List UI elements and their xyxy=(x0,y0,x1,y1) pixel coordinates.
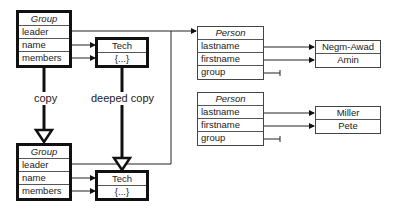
tech-object-bottom: Tech {...} xyxy=(95,170,149,201)
field-firstname: firstname xyxy=(198,119,263,132)
value-firstname: Pete xyxy=(316,120,380,133)
field-leader: leader xyxy=(19,26,69,39)
tech-object-top: Tech {...} xyxy=(95,37,149,68)
group-title: Group xyxy=(19,146,69,159)
value-lastname: Negm-Awad xyxy=(316,41,380,54)
field-firstname: firstname xyxy=(198,53,263,66)
field-lastname: lastname xyxy=(198,40,263,53)
deep-copy-label: deeped copy xyxy=(90,92,155,105)
tech-content: {...} xyxy=(98,53,146,66)
person-2-values: Miller Pete xyxy=(315,106,381,134)
person-1-values: Negm-Awad Amin xyxy=(315,40,381,68)
person-object-1: Person lastname firstname group xyxy=(197,26,264,80)
field-lastname: lastname xyxy=(198,106,263,119)
tech-title: Tech xyxy=(98,173,146,186)
value-firstname: Amin xyxy=(316,54,380,67)
field-name: name xyxy=(19,39,69,52)
group-object-bottom: Group leader name members xyxy=(16,143,72,201)
tech-title: Tech xyxy=(98,40,146,53)
field-members: members xyxy=(19,52,69,65)
tech-content: {...} xyxy=(98,186,146,199)
field-leader: leader xyxy=(19,159,69,172)
person-object-2: Person lastname firstname group xyxy=(197,92,264,146)
field-group: group xyxy=(198,66,263,79)
value-lastname: Miller xyxy=(316,107,380,120)
person-title: Person xyxy=(198,27,263,40)
group-object-top: Group leader name members xyxy=(16,10,72,68)
copy-label: copy xyxy=(33,92,58,105)
person-title: Person xyxy=(198,93,263,106)
field-members: members xyxy=(19,185,69,198)
field-group: group xyxy=(198,132,263,145)
group-title: Group xyxy=(19,13,69,26)
field-name: name xyxy=(19,172,69,185)
